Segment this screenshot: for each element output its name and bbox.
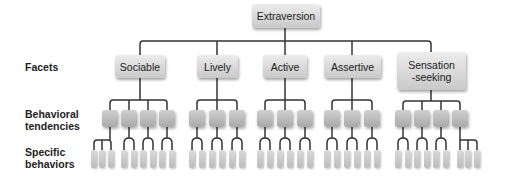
facet-node-assertive: Assertive — [324, 55, 381, 78]
behavior-node — [121, 150, 127, 168]
behavior-node — [465, 150, 471, 168]
tendency-node — [414, 110, 430, 127]
behavior-node — [334, 150, 340, 168]
behavior-node — [219, 150, 225, 168]
tendency-node — [452, 110, 468, 127]
behavior-node — [169, 150, 175, 168]
behavior-node — [395, 150, 401, 168]
row-label-tendencies-line2: tendencies — [25, 120, 80, 132]
behavior-node — [99, 150, 105, 168]
behavior-node — [297, 150, 303, 168]
tendency-node — [344, 110, 360, 127]
behavior-node — [433, 150, 439, 168]
facet-node-active: Active — [263, 55, 307, 78]
behavior-node — [457, 150, 463, 168]
row-label-behavioral-tendencies: Behavioral tendencies — [25, 108, 80, 132]
tendency-node — [277, 110, 293, 127]
behavior-node — [424, 150, 430, 168]
facet-node-sociable: Sociable — [115, 55, 165, 78]
behavior-node — [159, 150, 165, 168]
behavior-node — [140, 150, 146, 168]
row-label-tendencies-line1: Behavioral — [25, 108, 80, 120]
behavior-node — [324, 150, 330, 168]
behavior-node — [354, 150, 360, 168]
behavior-node — [108, 150, 114, 168]
behavior-node — [374, 150, 380, 168]
behavior-node — [277, 150, 283, 168]
tendency-node — [297, 110, 313, 127]
behavior-node — [150, 150, 156, 168]
facet-label-line1: Sensation — [408, 59, 455, 71]
tendency-node — [159, 110, 175, 127]
behavior-node — [239, 150, 245, 168]
behavior-node — [287, 150, 293, 168]
tendency-node — [121, 110, 137, 127]
tendency-node — [364, 110, 380, 127]
row-label-behaviors-line1: Specific — [25, 146, 75, 158]
behavior-node — [199, 150, 205, 168]
row-label-facets: Facets — [25, 61, 58, 73]
behavior-node — [91, 150, 97, 168]
behavior-node — [131, 150, 137, 168]
tendency-node — [189, 110, 205, 127]
tendency-node — [102, 110, 118, 127]
behavior-node — [364, 150, 370, 168]
tendency-node — [257, 110, 273, 127]
tendency-node — [324, 110, 340, 127]
behavior-node — [414, 150, 420, 168]
tendency-node — [209, 110, 225, 127]
facet-label-line2: -seeking — [412, 71, 452, 83]
row-label-specific-behaviors: Specific behaviors — [25, 146, 75, 170]
facet-node-lively: Lively — [197, 55, 238, 78]
behavior-node — [443, 150, 449, 168]
behavior-node — [267, 150, 273, 168]
tendency-node — [395, 110, 411, 127]
behavior-node — [474, 150, 480, 168]
row-label-behaviors-line2: behaviors — [25, 158, 75, 170]
behavior-node — [257, 150, 263, 168]
behavior-node — [307, 150, 313, 168]
behavior-node — [229, 150, 235, 168]
tendency-node — [433, 110, 449, 127]
behavior-node — [405, 150, 411, 168]
tendency-node — [140, 110, 156, 127]
tendency-node — [229, 110, 245, 127]
behavior-node — [344, 150, 350, 168]
root-node-extraversion: Extraversion — [252, 4, 320, 28]
facet-node-sensation-seeking: Sensation -seeking — [397, 52, 466, 90]
behavior-node — [209, 150, 215, 168]
behavior-node — [189, 150, 195, 168]
